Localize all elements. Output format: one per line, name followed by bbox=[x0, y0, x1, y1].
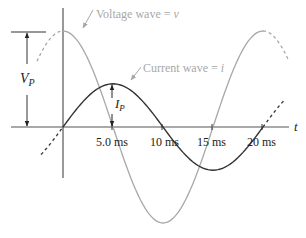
tick-label-15ms: 15 ms bbox=[197, 135, 226, 149]
vp-label: VP bbox=[20, 71, 35, 88]
current-wave-dashed-trail bbox=[263, 99, 285, 127]
voltage-wave-dashed-trail bbox=[263, 31, 289, 61]
current-wave-label: Current wave = i bbox=[143, 61, 224, 75]
voltage-current-diagram: VP IP Voltage wave = v Current wave = i … bbox=[0, 0, 306, 238]
time-axis-label: t bbox=[294, 119, 298, 134]
voltage-wave-dashed-lead bbox=[37, 31, 63, 61]
current-label-pointer bbox=[131, 67, 141, 80]
tick-label-10ms: 10 ms bbox=[150, 135, 179, 149]
current-wave-dashed-lead bbox=[41, 127, 63, 155]
voltage-wave-label: Voltage wave = v bbox=[96, 7, 180, 21]
voltage-label-pointer bbox=[83, 10, 93, 28]
tick-label-5ms: 5.0 ms bbox=[96, 135, 128, 149]
ip-label: IP bbox=[114, 96, 125, 113]
tick-label-20ms: 20 ms bbox=[247, 135, 276, 149]
